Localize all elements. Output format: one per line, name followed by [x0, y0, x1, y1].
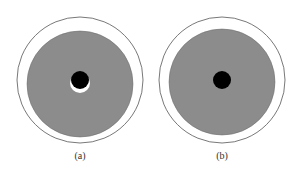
panel-b [159, 17, 285, 143]
panel-a [17, 17, 143, 143]
black-hole [71, 71, 89, 89]
caption-b: (b) [216, 150, 228, 161]
figure-canvas [0, 0, 301, 170]
caption-a: (a) [74, 150, 85, 161]
black-hole [213, 71, 231, 89]
